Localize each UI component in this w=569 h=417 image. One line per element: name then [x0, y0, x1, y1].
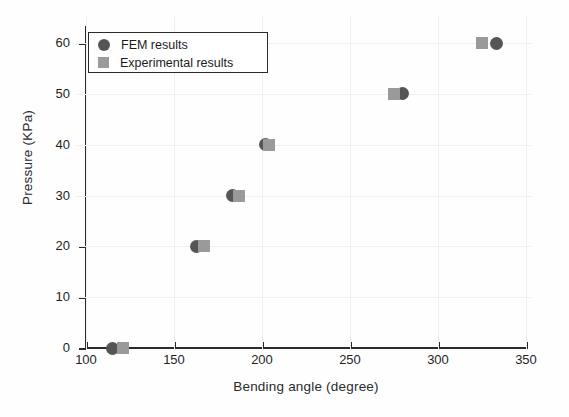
y-tick-label: 30: [22, 188, 70, 203]
gridline-horizontal: [76, 145, 532, 146]
y-tick-label: 40: [22, 137, 70, 152]
x-tick-label: 150: [144, 352, 204, 367]
gridline-vertical: [526, 15, 527, 352]
legend-item-fem: FEM results: [98, 36, 188, 53]
y-tick-mark: [79, 348, 86, 350]
legend-circle-marker-icon: [98, 39, 110, 51]
gridline-horizontal: [76, 297, 532, 298]
data-point-marker: [490, 37, 503, 50]
x-tick-label: 250: [320, 352, 380, 367]
legend-item-experimental: Experimental results: [98, 54, 233, 71]
legend-square-marker-icon: [98, 57, 109, 68]
scatter-chart-figure: Pressure (KPa) Bending angle (degree) 10…: [0, 0, 569, 417]
y-tick-label: 0: [22, 340, 70, 355]
data-point-marker: [117, 342, 129, 354]
legend-label-fem: FEM results: [121, 38, 188, 52]
data-point-marker: [263, 139, 275, 151]
data-point-marker: [476, 37, 488, 49]
gridline-horizontal: [76, 94, 532, 95]
gridline-horizontal: [76, 246, 532, 247]
data-point-marker: [233, 190, 245, 202]
data-point-marker: [388, 88, 400, 100]
plot-area: [86, 43, 526, 348]
gridline-vertical: [438, 15, 439, 352]
x-axis-title: Bending angle (degree): [86, 379, 526, 394]
gridline-vertical: [350, 15, 351, 352]
x-tick-label: 350: [496, 352, 556, 367]
legend-label-experimental: Experimental results: [120, 56, 233, 70]
gridline-vertical: [86, 15, 87, 352]
x-tick-label: 200: [232, 352, 292, 367]
x-tick-label: 300: [408, 352, 468, 367]
y-tick-label: 10: [22, 289, 70, 304]
y-tick-label: 60: [22, 35, 70, 50]
y-tick-label: 50: [22, 86, 70, 101]
y-tick-label: 20: [22, 238, 70, 253]
gridline-horizontal: [76, 196, 532, 197]
data-point-marker: [198, 240, 210, 252]
chart-legend: FEM results Experimental results: [88, 32, 268, 73]
